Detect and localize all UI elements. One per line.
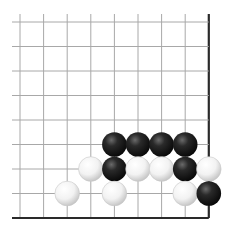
black-stone[interactable] — [197, 181, 222, 206]
white-stone[interactable] — [79, 157, 104, 182]
white-stone[interactable] — [102, 181, 127, 206]
black-stone[interactable] — [173, 132, 198, 157]
white-stone[interactable] — [55, 181, 80, 206]
white-stone[interactable] — [173, 181, 198, 206]
black-stone[interactable] — [149, 132, 174, 157]
black-stone[interactable] — [173, 157, 198, 182]
black-stone[interactable] — [102, 132, 127, 157]
black-stone[interactable] — [126, 132, 151, 157]
white-stone[interactable] — [197, 157, 222, 182]
go-board[interactable] — [0, 0, 232, 230]
white-stone[interactable] — [126, 157, 151, 182]
white-stone[interactable] — [149, 157, 174, 182]
black-stone[interactable] — [102, 157, 127, 182]
